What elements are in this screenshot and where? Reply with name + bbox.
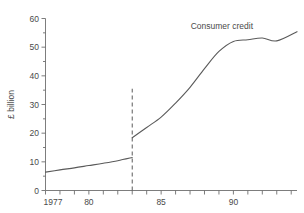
y-axis-major-ticks — [42, 19, 46, 191]
chart-annotations: Consumer credit — [191, 21, 254, 31]
y-axis-tick-label: 0 — [34, 186, 39, 196]
consumer-credit-line-chart: 0102030405060 1977808590 £ billion Consu… — [0, 0, 304, 213]
data-line-series-1 — [132, 32, 297, 138]
y-axis-tick-label: 20 — [30, 128, 40, 138]
x-axis-ticks — [46, 191, 292, 195]
x-axis-tick-labels: 1977808590 — [44, 197, 239, 207]
plot-area — [46, 32, 298, 191]
y-axis-tick-labels: 0102030405060 — [30, 14, 40, 196]
y-axis-tick-label: 30 — [30, 100, 40, 110]
x-axis-tick-label: 85 — [156, 197, 166, 207]
x-axis-tick-label: 80 — [84, 197, 94, 207]
y-axis-tick-label: 40 — [30, 71, 40, 81]
x-axis: 1977808590 — [44, 191, 298, 207]
y-axis-tick-label: 10 — [30, 157, 40, 167]
data-line-series-0 — [46, 158, 133, 173]
y-axis: 0102030405060 — [30, 14, 46, 196]
x-axis-tick-label: 1977 — [44, 197, 63, 207]
y-axis-tick-label: 50 — [30, 42, 40, 52]
y-axis-title: £ billion — [6, 90, 16, 119]
y-axis-tick-label: 60 — [30, 14, 40, 24]
series-annotation-label: Consumer credit — [191, 21, 254, 31]
x-axis-tick-label: 90 — [229, 197, 239, 207]
chart-container: 0102030405060 1977808590 £ billion Consu… — [0, 0, 304, 213]
